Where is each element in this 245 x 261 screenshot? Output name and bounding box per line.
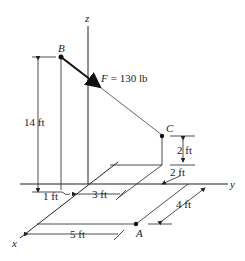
dim-14ft-label: 14 ft [24,116,44,128]
point-b [59,55,64,60]
point-b-label: B [58,42,65,54]
point-a [134,222,138,226]
dim-4ft-label: 4 ft [176,198,191,210]
dim-5ft-label: 5 ft [70,228,85,240]
dim-1ft-label: 1 ft [43,190,58,202]
x-axis-label: x [11,237,17,249]
c-diag-line [118,165,162,198]
point-c-label: C [166,122,174,134]
x-axis [20,162,118,238]
force-diagram: z y x B C A F= 130 lb 14 ft 1 ft 3 ft 2 … [0,0,245,261]
point-c [160,134,164,138]
dim-3ft-label: 3 ft [92,188,107,200]
dim-3ft-tick [116,190,126,200]
z-axis-label: z [84,12,90,24]
dim-2ft-y-label: 2 ft [170,166,185,178]
dim-5ft-tick [114,230,124,240]
force-value: = 130 lb [111,72,148,84]
y-axis-label: y [229,178,235,190]
force-arrow [61,57,100,87]
force-label: F= 130 lb [100,72,148,84]
force-symbol: F [100,72,108,84]
point-a-label: A [135,227,143,239]
dim-1ft-hook [62,192,70,195]
dim-2ft-c-label: 2 ft [177,144,192,156]
